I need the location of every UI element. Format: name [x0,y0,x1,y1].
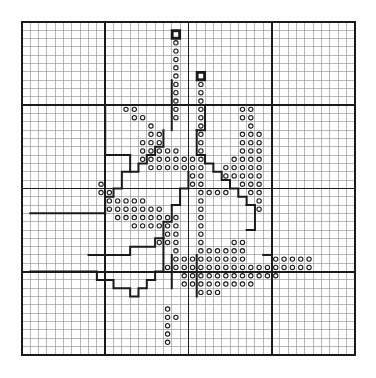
circle-symbol [182,282,186,286]
circle-symbol [165,157,169,161]
circle-symbol [199,165,203,169]
circle-symbol [240,116,244,120]
circle-symbol [240,149,244,153]
circle-symbol [182,274,186,278]
circle-symbol [174,66,178,70]
circle-symbol [290,265,294,269]
circle-symbol [224,249,228,253]
pattern-grid-svg [0,0,376,378]
circle-symbol [182,257,186,261]
circle-symbol [174,315,178,319]
circle-symbol [132,215,136,219]
circle-symbol [199,199,203,203]
circle-symbol [215,249,219,253]
circle-symbol [249,124,253,128]
circle-symbol [182,157,186,161]
circle-symbol [99,182,103,186]
circle-symbol [165,340,169,344]
circle-symbol [199,140,203,144]
circle-symbol [199,265,203,269]
circle-symbol [174,74,178,78]
circle-symbol [274,274,278,278]
circle-symbol [299,265,303,269]
circle-symbol [215,265,219,269]
circle-symbol [174,149,178,153]
circle-symbol [174,91,178,95]
circle-symbol [232,249,236,253]
circle-symbol [199,149,203,153]
circle-symbol [215,274,219,278]
circle-symbol [140,207,144,211]
circle-symbol [190,282,194,286]
circle-symbol [165,265,169,269]
circle-symbol [190,174,194,178]
circle-symbol [199,124,203,128]
circle-symbol [257,182,261,186]
circle-symbol [274,257,278,261]
circle-symbol [149,149,153,153]
circle-symbol [249,265,253,269]
circle-symbol [240,174,244,178]
circle-symbol [174,265,178,269]
circle-symbol [199,82,203,86]
circle-symbol [249,149,253,153]
circle-symbol [299,257,303,261]
circle-symbol [107,199,111,203]
circle-symbol [249,107,253,111]
circle-symbol [174,57,178,61]
circle-symbol [240,157,244,161]
circle-symbol [224,174,228,178]
circle-symbol [307,257,311,261]
circle-symbol [157,240,161,244]
circle-symbol [182,165,186,169]
circle-symbol [282,265,286,269]
circle-symbol [257,274,261,278]
circle-symbol [132,107,136,111]
circle-symbol [165,240,169,244]
circle-symbol [265,265,269,269]
circle-symbol [199,274,203,278]
circle-symbol [207,274,211,278]
circle-symbol [265,274,269,278]
circle-symbol [199,99,203,103]
circle-symbol [224,165,228,169]
circle-symbol [282,257,286,261]
box-symbol [173,31,180,38]
circle-symbol [215,282,219,286]
circle-symbol [190,257,194,261]
circle-symbol [107,190,111,194]
circle-symbol [207,290,211,294]
circle-symbol [249,132,253,136]
circle-symbol [165,315,169,319]
circle-symbol [199,232,203,236]
circle-symbol [249,190,253,194]
circle-symbol [249,174,253,178]
circle-symbol [232,240,236,244]
circle-symbol [199,107,203,111]
circle-symbol [140,140,144,144]
circle-symbol [249,157,253,161]
circle-symbol [224,190,228,194]
circle-symbol [157,165,161,169]
circle-symbol [149,124,153,128]
circle-symbol [249,140,253,144]
circle-symbol [240,240,244,244]
circle-symbol [174,232,178,236]
circle-symbol [257,157,261,161]
circle-symbol [124,207,128,211]
circle-symbol [232,274,236,278]
circle-symbol [240,282,244,286]
circle-symbol [207,249,211,253]
circle-symbol [149,207,153,211]
circle-symbol [140,149,144,153]
circle-symbol [140,215,144,219]
circle-symbol [174,99,178,103]
circle-symbol [157,140,161,144]
circle-symbol [140,199,144,203]
circle-symbol [215,190,219,194]
circle-symbol [124,215,128,219]
circle-symbol [165,149,169,153]
circle-symbol [165,332,169,336]
circle-symbol [240,165,244,169]
circle-symbol [199,91,203,95]
